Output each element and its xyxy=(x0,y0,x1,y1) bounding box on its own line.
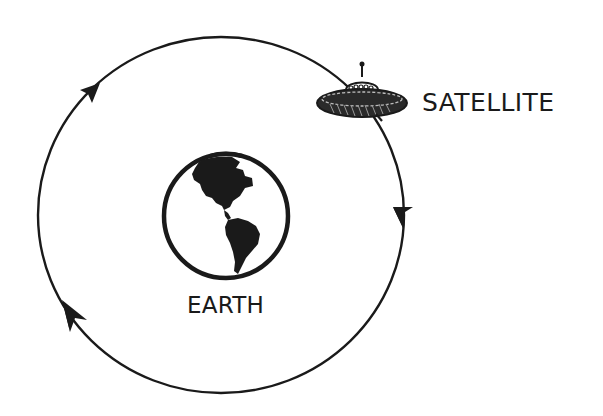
orbit-arrow-right-icon xyxy=(393,207,413,228)
satellite-saucer-icon xyxy=(317,62,407,122)
orbit-arrow-bottom-left-icon xyxy=(62,300,87,332)
orbit-diagram xyxy=(0,0,603,416)
orbit-arrow-top-left-icon xyxy=(80,83,100,103)
earth-globe-icon xyxy=(164,154,288,278)
satellite-label: SATELLITE xyxy=(422,90,554,115)
earth-label: EARTH xyxy=(187,294,264,317)
